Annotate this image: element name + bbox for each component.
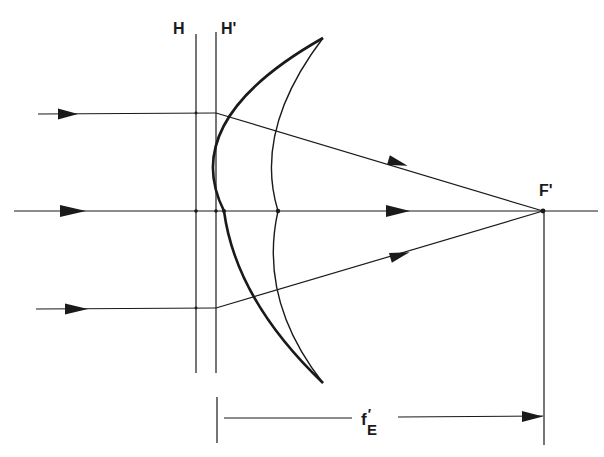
upper-ray-refracted [216,113,543,211]
node-point [195,307,198,310]
arrow-icon [522,411,543,422]
arrow-icon [58,109,78,120]
lower-ray-refracted [216,211,543,308]
optical-diagram: H H' F' f′E [0,0,604,457]
node-point [195,112,198,115]
arrow-icon [386,205,410,217]
lower-ray-incoming [36,308,216,309]
node-point [214,209,218,213]
node-point [276,209,280,213]
label-h: H [173,20,185,37]
arrow-icon [389,247,411,262]
dimension-line-right [398,416,543,417]
label-focal-length-prime: ′ [368,406,372,422]
label-focal-point: F' [539,182,553,199]
label-focal-length-sub: E [367,421,377,438]
label-focal-length: f′E [361,406,377,438]
node-point [222,209,226,213]
arrow-icon [387,155,409,170]
node-point [194,209,198,213]
arrow-icon [65,304,88,315]
arrow-icon [60,205,86,217]
label-h-prime: H' [221,20,236,37]
focal-point-dot [541,209,546,214]
